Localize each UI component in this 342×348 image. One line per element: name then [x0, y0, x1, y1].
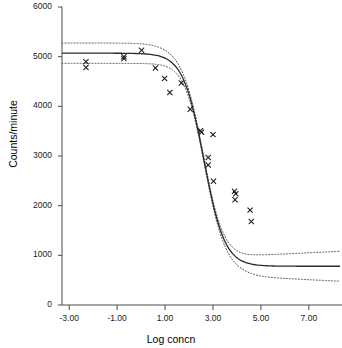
y-tick-label: 1000	[8, 250, 52, 259]
fitted-curve	[62, 53, 340, 266]
x-axis-ticks	[69, 305, 309, 310]
x-axis-title: Log concn	[0, 333, 342, 345]
data-point	[248, 208, 253, 213]
data-point	[167, 90, 172, 95]
x-tick-label: -1.00	[97, 314, 137, 323]
y-axis-ticks	[58, 7, 62, 305]
y-axis-title: Counts/minute	[7, 74, 19, 194]
data-point	[206, 155, 211, 160]
x-tick-label: -3.00	[49, 314, 89, 323]
data-point	[139, 48, 144, 53]
data-point	[206, 162, 211, 167]
x-tick-label: 7.00	[289, 314, 329, 323]
x-tick-label: 1.00	[145, 314, 185, 323]
data-point	[162, 76, 167, 81]
data-point	[153, 65, 158, 70]
chart-figure: 0100020003000400050006000 -3.00-1.001.00…	[0, 0, 342, 348]
x-tick-label: 3.00	[193, 314, 233, 323]
data-point	[249, 219, 254, 224]
y-tick-label: 2000	[8, 201, 52, 210]
data-point-markers	[83, 48, 254, 225]
data-point	[211, 179, 216, 184]
lower-confidence-band	[62, 63, 340, 281]
y-tick-label: 5000	[8, 52, 52, 61]
x-tick-label: 5.00	[241, 314, 281, 323]
data-point	[210, 132, 215, 137]
y-tick-label: 6000	[8, 2, 52, 11]
upper-confidence-band	[62, 43, 340, 255]
y-tick-label: 0	[8, 300, 52, 309]
data-point	[83, 65, 88, 70]
data-point	[232, 197, 237, 202]
